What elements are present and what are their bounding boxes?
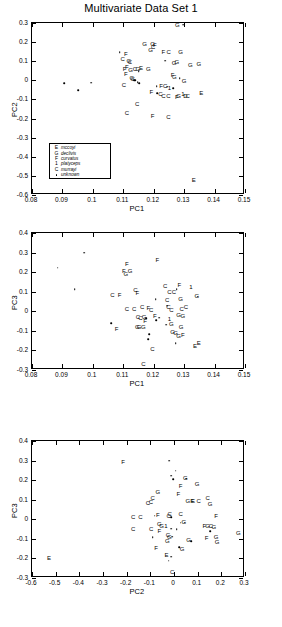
data-point-C: C	[165, 297, 169, 303]
x-tick-label: 0.11	[116, 196, 128, 203]
data-point-F: F	[177, 282, 181, 288]
data-point-E: E	[197, 340, 201, 346]
data-point-C: C	[135, 101, 139, 107]
y-axis-label: PC2	[10, 102, 19, 117]
data-point-unknown	[179, 77, 181, 79]
data-point-F: F	[156, 512, 160, 518]
data-point-G: G	[165, 538, 170, 544]
y-tick-label: 0.3	[6, 456, 28, 463]
data-point-G: G	[179, 324, 184, 330]
data-point-unknown	[152, 536, 154, 538]
x-tick-label: 0.09	[55, 371, 68, 378]
y-tick-label: 0.3	[6, 19, 28, 26]
y-axis-label: PC3	[10, 503, 19, 518]
data-point-unknown	[91, 82, 93, 84]
data-point-G: G	[195, 481, 200, 487]
x-tick-label: 0.09	[55, 196, 68, 203]
x-tick-label: 0.14	[207, 196, 220, 203]
data-point-G: G	[178, 49, 183, 55]
data-point-C: C	[166, 114, 170, 120]
y-tick-label: -0.2	[6, 554, 28, 561]
data-point-unknown	[170, 475, 172, 477]
data-point-G: G	[174, 59, 179, 65]
legend-label: unknown	[61, 172, 79, 177]
data-point-F: F	[154, 545, 158, 551]
data-point-C: C	[125, 110, 129, 116]
data-point-unknown	[158, 317, 160, 319]
data-point-unknown	[170, 516, 172, 518]
x-tick-label: 0.15	[238, 196, 251, 203]
data-point-unknown	[168, 460, 170, 462]
data-point-F: F	[181, 332, 185, 338]
data-point-F: F	[125, 261, 129, 267]
legend-label: declivis	[61, 151, 76, 156]
y-tick-label: 0.1	[6, 57, 28, 64]
plot-frame: FFGGCFCFFCFCC1CGGCCCFCCCCCCCGF1GGFGGGGGF…	[31, 232, 244, 369]
y-tick-label: -0.1	[6, 326, 28, 333]
data-point-unknown	[155, 319, 157, 321]
y-tick-label: -0.2	[6, 346, 28, 353]
data-point-G: G	[181, 313, 186, 319]
data-point-C: C	[166, 93, 170, 99]
y-tick-label: 0.4	[6, 229, 28, 236]
data-point-F: F	[143, 318, 147, 324]
y-tick-label: -0.3	[6, 133, 28, 140]
data-point-unknown	[172, 478, 174, 480]
x-tick-label: 0.13	[177, 196, 190, 203]
legend-symbol-unknown	[52, 172, 61, 177]
data-point-unknown	[176, 289, 178, 291]
data-point-C: C	[140, 304, 144, 310]
data-point-C: C	[149, 499, 153, 505]
data-point-1: 1	[168, 85, 171, 91]
data-point-F: F	[175, 94, 179, 100]
data-point-unknown	[63, 82, 65, 84]
data-point-E: E	[164, 552, 168, 558]
data-point-G: G	[188, 62, 193, 68]
data-point-F: F	[115, 326, 119, 332]
data-point-C: C	[166, 49, 170, 55]
y-tick-label: 0.4	[6, 437, 28, 444]
x-tick-label: 0.1	[87, 196, 96, 203]
data-point-unknown	[209, 531, 211, 533]
data-point-unknown	[156, 86, 158, 88]
data-point-unknown	[74, 289, 76, 291]
data-point-unknown	[170, 556, 172, 558]
data-point-E: E	[47, 555, 51, 561]
data-point-unknown	[166, 324, 168, 326]
y-tick-label: -0.3	[6, 366, 28, 373]
x-tick	[245, 189, 246, 193]
x-tick	[245, 572, 246, 576]
x-tick-label: 0.1	[87, 371, 96, 378]
data-point-G: G	[236, 530, 241, 536]
x-axis-label: PC2	[130, 587, 145, 596]
data-point-C: C	[170, 569, 174, 575]
y-tick-label: 0	[6, 76, 28, 83]
data-point-G: G	[169, 321, 174, 327]
data-point-G: G	[148, 47, 153, 53]
data-point-unknown	[135, 80, 137, 82]
data-point-F: F	[151, 113, 155, 119]
data-point-G: G	[123, 271, 128, 277]
data-point-1: 1	[164, 523, 167, 529]
y-tick-label: -0.5	[6, 171, 28, 178]
y-tick-label: -0.1	[6, 95, 28, 102]
data-point-F: F	[157, 528, 161, 534]
data-point-unknown	[149, 334, 151, 336]
x-axis-label: PC1	[130, 379, 145, 388]
y-tick-label: 0.2	[6, 476, 28, 483]
data-point-unknown	[164, 60, 166, 62]
x-tick-label: -0.4	[73, 579, 84, 586]
data-point-F: F	[149, 89, 153, 95]
data-point-layer: FFGGCFCFFCFCC1CGGCCCFCCCCCCCGF1GGFGGGGGF…	[32, 233, 243, 368]
data-point-G: G	[178, 296, 183, 302]
y-tick-label: 0.2	[6, 268, 28, 275]
x-tick	[245, 233, 246, 237]
data-point-1: 1	[189, 284, 192, 290]
x-tick-label: 0.14	[207, 371, 220, 378]
data-point-unknown	[172, 88, 174, 90]
data-point-C: C	[131, 514, 135, 520]
x-tick-label: 0.2	[216, 579, 225, 586]
data-point-unknown	[147, 338, 149, 340]
legend-symbol-C: C	[52, 167, 61, 172]
data-point-E: E	[139, 65, 143, 71]
